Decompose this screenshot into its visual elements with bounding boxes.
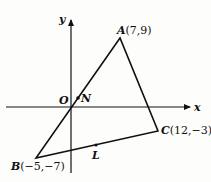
- point-c-label: C(12,−3): [161, 124, 211, 137]
- point-b-label: B(−5,−7): [10, 160, 65, 173]
- diagram-svg: y x O A(7,9) C(12,−3) B(−5,−7) N L: [0, 0, 211, 182]
- point-b-coords: (−5,−7): [20, 160, 65, 173]
- point-b-letter: B: [10, 160, 20, 173]
- y-axis-label: y: [58, 13, 67, 26]
- origin-label: O: [59, 94, 69, 107]
- point-a-letter: A: [116, 24, 126, 37]
- point-a-coords: (7,9): [126, 24, 152, 37]
- point-c-letter: C: [161, 124, 170, 137]
- triangle-diagram: y x O A(7,9) C(12,−3) B(−5,−7) N L: [0, 0, 211, 182]
- point-n-label: N: [80, 92, 92, 105]
- point-l-dot: [94, 143, 97, 146]
- point-l-label: L: [91, 149, 100, 162]
- triangle-abc: [36, 38, 158, 158]
- point-n-dot: [76, 96, 80, 100]
- point-a-label: A(7,9): [116, 24, 152, 37]
- point-c-coords: (12,−3): [170, 124, 211, 137]
- x-axis-label: x: [193, 101, 201, 114]
